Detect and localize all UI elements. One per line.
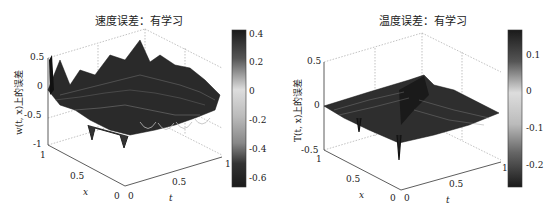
colorbar-tick: 0 [249,87,255,96]
z-tick: 0 [314,101,320,110]
colorbar-tick: 0.4 [249,30,263,39]
z-tick: 0.5 [307,57,321,66]
x-tick: 0 [114,192,120,201]
colorbar-tick: -0.2 [249,116,266,125]
z-tick: -1 [33,140,42,149]
temperature-plot-title: 温度误差：有学习 [379,12,467,28]
temperature-colorbar [508,30,522,187]
velocity-surface-mesh [48,40,220,148]
velocity-plot-title: 速度误差：有学习 [95,12,183,28]
x-tick: 1 [316,155,322,164]
t-tick: 0 [128,192,134,201]
x-axis-label: x [83,187,88,197]
colorbar-tick: -0.2 [526,161,543,170]
z-tick: 0.5 [30,53,44,62]
colorbar-tick: -0.6 [249,174,266,183]
velocity-error-surface-plot [0,0,279,206]
colorbar-tick: -0.1 [526,124,543,133]
x-tick: 0 [390,194,396,203]
t-tick: 1 [502,164,508,173]
t-tick: 0.5 [449,180,463,189]
x-tick: 1 [40,151,46,160]
temperature-error-surface-plot [279,0,558,206]
velocity-error-panel: 速度误差：有学习 0.5 0 -0.5 -1 w(t, x)上的误差 1 0.5… [0,0,279,206]
x-axis-label: x [359,190,364,200]
z-tick: -0.5 [24,111,41,120]
colorbar-tick: -0.4 [249,145,266,154]
temperature-error-panel: 温度误差：有学习 0.5 0 -0.5 T(t, x)上的误差 1 0.5 0 … [279,0,558,206]
z-axis-label: w(t, x)上的误差 [12,70,25,135]
temperature-surface-mesh [324,75,499,160]
colorbar-tick: 0.1 [526,51,540,60]
t-axis-label: t [169,193,173,203]
x-tick: 0.5 [70,172,84,181]
z-tick: 0 [37,82,43,91]
t-tick: 0 [404,194,410,203]
t-tick: 1 [225,160,231,169]
colorbar-tick: 0 [526,87,532,96]
x-tick: 0.5 [346,175,360,184]
colorbar-tick: 0.2 [249,58,263,67]
velocity-colorbar [232,30,246,187]
t-axis-label: t [446,195,450,205]
t-tick: 0.5 [172,178,186,187]
z-axis-label: T(t, x)上的误差 [291,79,304,142]
